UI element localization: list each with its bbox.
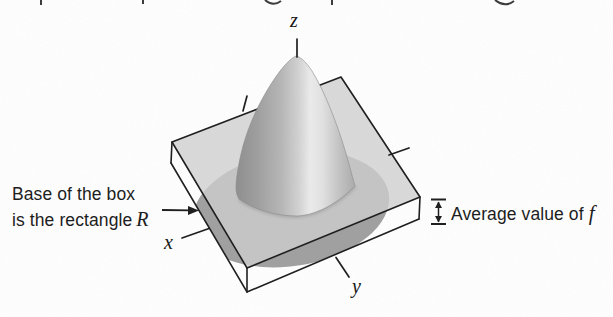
axis-label-x: x xyxy=(164,231,173,254)
base-caption-line1: Base of the box xyxy=(12,182,149,207)
scan-grain-overlay xyxy=(0,0,613,317)
figure-canvas xyxy=(0,0,613,317)
rectangle-R-symbol: R xyxy=(136,208,148,230)
axis-label-y: y xyxy=(352,275,361,298)
function-f-symbol: f xyxy=(589,201,595,225)
figure-page: z x y Base of the box is the rectangleR … xyxy=(0,0,613,317)
base-caption-line2: is the rectangleR xyxy=(12,207,149,233)
axis-label-z: z xyxy=(290,9,298,32)
base-caption: Base of the box is the rectangleR xyxy=(12,182,149,233)
average-value-caption: Average value off xyxy=(451,201,595,226)
